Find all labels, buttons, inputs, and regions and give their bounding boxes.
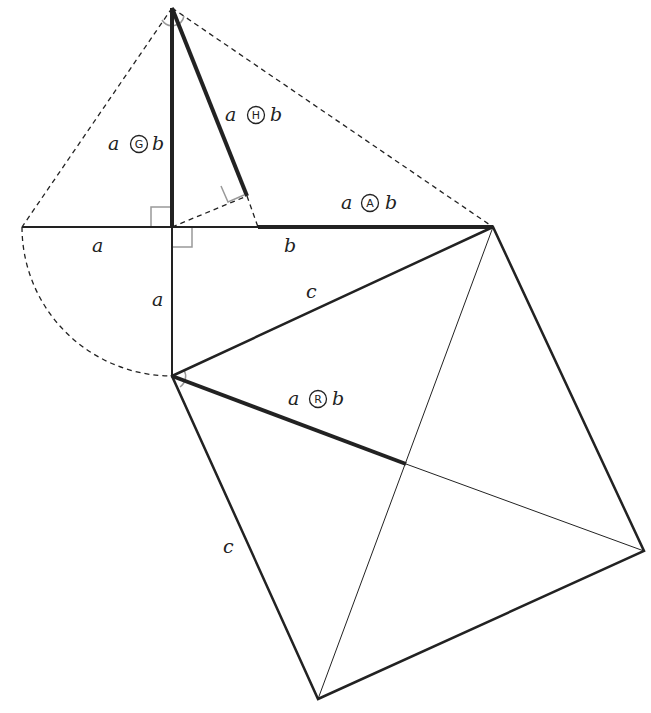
right-angle-mark-lower-right — [172, 227, 192, 247]
svg-text:a: a — [288, 387, 299, 409]
label-geometric-mean: a G b — [108, 132, 164, 154]
svg-text:b: b — [332, 387, 344, 409]
svg-text:a: a — [341, 191, 352, 213]
means-diagram: a b a c c a G b a H b a A b a R b — [0, 0, 651, 713]
label-a-horizontal: a — [92, 234, 103, 256]
right-angle-mark-upper-left — [151, 207, 172, 227]
svg-text:A: A — [366, 197, 374, 210]
right-angle-mark-h — [221, 186, 244, 202]
svg-text:R: R — [314, 393, 322, 406]
label-b-horizontal: b — [284, 234, 296, 256]
svg-text:b: b — [385, 191, 397, 213]
label-harmonic-mean: a H b — [225, 103, 282, 125]
label-c-upper: c — [306, 280, 317, 302]
label-rms-mean: a R b — [288, 387, 344, 409]
harmonic-mean-segment — [172, 8, 247, 196]
svg-text:a: a — [108, 132, 119, 154]
svg-text:G: G — [135, 138, 144, 151]
square-c — [172, 227, 644, 699]
dashed-line-top-right — [172, 8, 493, 227]
label-a-vertical: a — [152, 288, 163, 310]
svg-text:b: b — [270, 103, 282, 125]
dashed-line-foot-hfoot — [172, 196, 247, 227]
svg-text:b: b — [152, 132, 164, 154]
svg-text:H: H — [252, 109, 260, 122]
label-arithmetic-mean: a A b — [341, 191, 397, 213]
dashed-line-top-left — [22, 8, 172, 227]
dashed-line-hfoot-mid — [247, 196, 258, 227]
label-c-left: c — [223, 535, 234, 557]
svg-text:a: a — [225, 103, 236, 125]
